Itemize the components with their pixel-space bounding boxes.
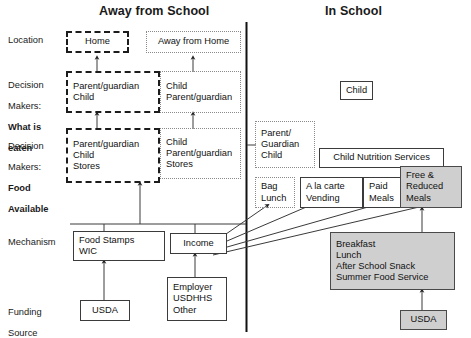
box-child-nutrition-services[interactable]: Child Nutrition Services <box>319 148 444 168</box>
diagram-canvas: Away from School In School Location Deci… <box>0 0 471 338</box>
box-line: Meals <box>369 193 402 204</box>
box-line: Guardian <box>261 139 310 150</box>
box-line: Parent/guardian <box>166 92 236 103</box>
row-label-location: Location <box>8 35 43 46</box>
box-line: Food Stamps <box>79 235 160 246</box>
box-line: Lunch <box>336 250 450 261</box>
box-line: Child <box>166 81 236 92</box>
row-label-line: Food <box>8 183 48 194</box>
row-label-line: Makers: <box>8 101 44 112</box>
box-line: Other <box>173 305 222 316</box>
box-line: Child <box>73 92 154 103</box>
box-child-nutrition-services-label: Child Nutrition Services <box>333 152 430 163</box>
row-label-decision-makers-food-available: Decision Makers: Food Available <box>8 130 48 225</box>
header-in-school: In School <box>325 4 382 18</box>
header-away-from-school: Away from School <box>99 4 209 18</box>
row-label-line: Funding <box>8 307 42 318</box>
box-line: Summer Food Service <box>336 272 450 283</box>
box-parent-guardian-child[interactable]: Parent/ Guardian Child <box>255 121 315 168</box>
box-line: Bag <box>261 181 290 192</box>
box-line: Child <box>261 150 310 161</box>
box-free-reduced-meals[interactable]: Free & Reduced Meals <box>400 166 462 208</box>
box-bag-lunch[interactable]: Bag Lunch <box>255 177 295 208</box>
box-decision-makers-food-away[interactable]: Child Parent/guardian Stores <box>160 128 241 179</box>
box-line: Child <box>166 137 236 148</box>
box-decision-makers-what-home[interactable]: Parent/guardian Child <box>66 71 160 113</box>
box-school-meal-programs[interactable]: Breakfast Lunch After School Snack Summe… <box>330 232 455 290</box>
box-line: Parent/ <box>261 128 310 139</box>
box-line: Stores <box>166 159 236 170</box>
box-line: Parent/guardian <box>73 81 154 92</box>
row-label-line: Source <box>8 328 42 338</box>
box-line: Meals <box>406 193 457 204</box>
box-line: Child <box>73 150 154 161</box>
box-line: After School Snack <box>336 261 450 272</box>
box-line: Reduced <box>406 181 457 192</box>
box-line: Stores <box>73 161 154 172</box>
row-label-line: Decision <box>8 80 44 91</box>
box-decision-makers-food-home[interactable]: Parent/guardian Child Stores <box>66 128 160 183</box>
box-usda-right-label: USDA <box>411 314 437 325</box>
row-label-mechanism: Mechanism <box>8 237 56 248</box>
row-label-line: Makers: <box>8 162 48 173</box>
box-decision-makers-what-away[interactable]: Child Parent/guardian <box>160 71 241 113</box>
box-usda-left[interactable]: USDA <box>80 300 130 321</box>
box-income-label: Income <box>183 238 214 249</box>
box-away-from-home-label: Away from Home <box>158 36 229 47</box>
box-line: A la carte <box>306 181 358 192</box>
box-line: Free & <box>406 170 457 181</box>
box-usda-right[interactable]: USDA <box>400 310 447 330</box>
box-employer-usdhhs-other[interactable]: Employer USDHHS Other <box>167 277 227 321</box>
box-away-from-home[interactable]: Away from Home <box>146 31 241 53</box>
box-usda-left-label: USDA <box>92 305 118 316</box>
box-child-in-school[interactable]: Child <box>340 81 373 100</box>
box-line: Vending <box>306 193 358 204</box>
box-food-stamps-wic[interactable]: Food Stamps WIC <box>73 231 165 261</box>
row-label-line: Decision <box>8 141 48 152</box>
box-line: Parent/guardian <box>73 139 154 150</box>
box-line: Paid <box>369 181 402 192</box>
box-line: Lunch <box>261 193 290 204</box>
row-label-funding-source: Funding Source <box>8 296 42 338</box>
box-a-la-carte-vending[interactable]: A la carte Vending <box>300 177 363 208</box>
box-income[interactable]: Income <box>170 233 227 254</box>
box-line: Parent/guardian <box>166 148 236 159</box>
row-label-line: Available <box>8 204 48 215</box>
box-child-label: Child <box>346 85 367 96</box>
box-line: WIC <box>79 246 160 257</box>
box-line: USDHHS <box>173 293 222 304</box>
box-home-label: Home <box>85 36 110 47</box>
box-home[interactable]: Home <box>66 31 129 53</box>
box-line: Breakfast <box>336 239 450 250</box>
box-line: Employer <box>173 282 222 293</box>
